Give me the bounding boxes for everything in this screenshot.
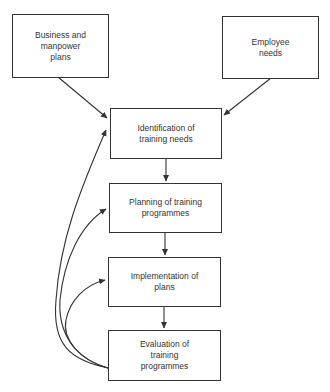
- node-label: Identification of training needs: [137, 123, 194, 145]
- node-identification-of-training-needs: Identification of training needs: [110, 108, 222, 159]
- node-label: Evaluation of training programmes: [140, 339, 189, 372]
- node-evaluation-of-training-programmes: Evaluation of training programmes: [108, 330, 221, 381]
- node-label: Employee needs: [252, 37, 290, 59]
- node-label: Business and manpower plans: [35, 30, 86, 63]
- node-label: Implementation of plans: [131, 271, 199, 293]
- feedback-evaluation-to-implementation: [65, 280, 108, 368]
- node-planning-of-training-programmes: Planning of training programmes: [109, 183, 222, 233]
- feedback-evaluation-to-identification: [55, 130, 108, 368]
- arrow-employee-to-identification: [224, 78, 271, 115]
- node-business-and-manpower-plans: Business and manpower plans: [12, 14, 109, 78]
- node-label: Planning of training programmes: [129, 197, 202, 219]
- node-employee-needs: Employee needs: [222, 16, 319, 79]
- node-implementation-of-plans: Implementation of plans: [108, 257, 221, 307]
- arrow-business-to-identification: [58, 77, 107, 118]
